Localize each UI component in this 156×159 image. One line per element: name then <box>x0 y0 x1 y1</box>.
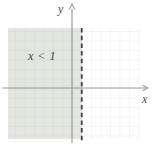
y-axis-label: y <box>58 3 63 15</box>
region-label: x < 1 <box>28 50 56 62</box>
x-axis-label: x <box>142 93 147 105</box>
grid-lines-shaded <box>8 28 82 139</box>
inequality-graph: y x x < 1 <box>0 0 156 159</box>
y-axis-arrow-icon <box>69 4 74 10</box>
plot-canvas <box>0 0 156 159</box>
